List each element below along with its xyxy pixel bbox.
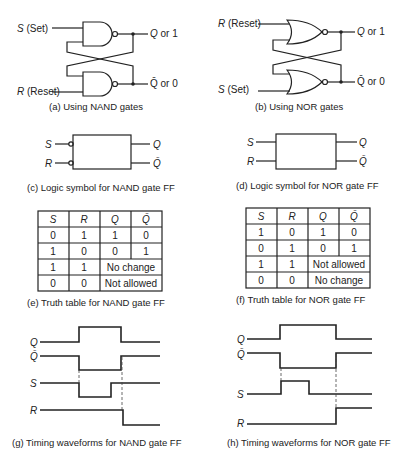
svg-text:Q: Q (111, 214, 119, 225)
nand-gate-top-icon (83, 22, 112, 46)
svg-text:Q̄: Q̄ (153, 157, 161, 169)
svg-text:Q̄: Q̄ (237, 348, 245, 360)
caption-h: (h) Timing waveforms for NOR gate FF (227, 437, 391, 448)
svg-text:R: R (30, 405, 37, 416)
svg-text:Q: Q (237, 334, 245, 345)
svg-text:S: S (237, 389, 244, 400)
svg-text:No change: No change (107, 262, 156, 273)
output-q-label: Q or 1 (357, 26, 385, 37)
svg-text:0: 0 (50, 230, 56, 241)
svg-text:0: 0 (289, 275, 295, 286)
caption-c: (c) Logic symbol for NAND gate FF (27, 182, 175, 193)
svg-text:0: 0 (50, 278, 56, 289)
svg-text:Q: Q (153, 139, 161, 150)
svg-text:0: 0 (81, 278, 87, 289)
nand-truth-table: S R Q Q̄ 0 1 1 0 1 0 0 1 1 1 No change 0… (27, 211, 165, 308)
svg-text:1: 1 (112, 230, 118, 241)
svg-text:S: S (30, 378, 37, 389)
nand-latch-diagram: S (Set) R (Reset) Q or 1 Q̄ or 0 (a) Usi… (17, 22, 178, 112)
nor-timing-waveforms: Q Q̄ S R (h) Timing waveforms for NOR ga… (227, 325, 391, 448)
ff-box (276, 134, 336, 169)
svg-text:R: R (237, 418, 244, 429)
svg-text:No change: No change (315, 275, 364, 286)
svg-text:0: 0 (258, 243, 264, 254)
svg-text:S: S (247, 137, 254, 148)
svg-text:Not allowed: Not allowed (313, 259, 365, 270)
caption-d: (d) Logic symbol for NOR gate FF (236, 180, 379, 191)
svg-text:R: R (80, 214, 87, 225)
svg-text:Q̄: Q̄ (350, 210, 358, 222)
svg-text:0: 0 (289, 227, 295, 238)
nor-gate-bottom-icon (287, 70, 322, 94)
svg-text:1: 1 (258, 227, 264, 238)
input-s-label: S (Set) (17, 23, 48, 34)
svg-text:1: 1 (143, 246, 149, 257)
output-qbar-label: Q̄ or 0 (357, 75, 385, 87)
output-q-label: Q or 1 (150, 28, 178, 39)
caption-g: (g) Timing waveforms for NAND gate FF (12, 437, 182, 448)
caption-e: (e) Truth table for NAND gate FF (27, 297, 165, 308)
svg-text:Q: Q (359, 137, 367, 148)
svg-text:R: R (247, 156, 254, 167)
nor-latch-diagram: R (Reset) S (Set) Q or 1 Q̄ or 0 (b) Usi… (218, 18, 385, 112)
svg-text:Q̄: Q̄ (142, 213, 150, 225)
nor-gate-top-icon (287, 20, 322, 44)
svg-text:0: 0 (351, 227, 357, 238)
output-qbar-label: Q̄ or 0 (150, 77, 178, 89)
svg-text:R: R (288, 211, 295, 222)
svg-text:R: R (45, 158, 52, 169)
caption-a: (a) Using NAND gates (49, 101, 143, 112)
nor-ff-symbol: S R Q Q̄ (d) Logic symbol for NOR gate F… (236, 134, 379, 191)
svg-text:1: 1 (289, 243, 295, 254)
svg-text:S: S (258, 211, 265, 222)
svg-text:1: 1 (351, 243, 357, 254)
svg-text:1: 1 (320, 227, 326, 238)
caption-f: (f) Truth table for NOR gate FF (236, 294, 366, 305)
nand-gate-bottom-icon (83, 72, 112, 96)
caption-b: (b) Using NOR gates (255, 101, 343, 112)
input-r-label: R (Reset) (218, 18, 261, 29)
svg-text:1: 1 (258, 259, 264, 270)
svg-text:1: 1 (50, 262, 56, 273)
svg-text:0: 0 (81, 246, 87, 257)
nor-truth-table: S R Q Q̄ 1 0 1 0 0 1 0 1 1 1 Not allowed… (236, 208, 370, 305)
svg-text:1: 1 (50, 246, 56, 257)
svg-text:S: S (50, 214, 57, 225)
svg-text:0: 0 (143, 230, 149, 241)
svg-text:Q̄: Q̄ (359, 155, 367, 167)
input-s-label: S (Set) (218, 84, 249, 95)
svg-text:1: 1 (81, 262, 87, 273)
svg-text:Q̄: Q̄ (30, 350, 38, 362)
nand-ff-symbol: S R Q Q̄ (c) Logic symbol for NAND gate … (27, 135, 175, 193)
svg-text:Q: Q (319, 211, 327, 222)
svg-text:Q: Q (30, 337, 38, 348)
nand-timing-waveforms: Q Q̄ S R (g) Timing waveforms for NAND g… (12, 327, 182, 448)
svg-text:1: 1 (289, 259, 295, 270)
svg-text:Not allowed: Not allowed (105, 278, 157, 289)
svg-text:0: 0 (112, 246, 118, 257)
svg-text:0: 0 (320, 243, 326, 254)
svg-text:0: 0 (258, 275, 264, 286)
ff-box (73, 135, 131, 169)
svg-text:1: 1 (81, 230, 87, 241)
svg-text:S: S (45, 139, 52, 150)
